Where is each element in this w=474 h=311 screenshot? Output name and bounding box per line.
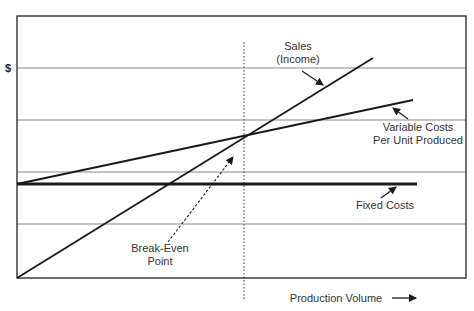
y-axis-label: $: [5, 62, 11, 74]
break-even-arrow: [168, 157, 233, 242]
break-even-label: Break-Even Point: [125, 242, 195, 268]
variable-costs-line: [17, 100, 413, 184]
fixed-costs-arrow: [381, 187, 396, 198]
break-even-label-line1: Break-Even: [125, 242, 195, 255]
break-even-label-line2: Point: [125, 255, 195, 268]
sales-label-line1: Sales: [268, 40, 328, 53]
break-even-chart: [0, 0, 474, 311]
x-axis-label: Production Volume: [286, 292, 386, 305]
variable-costs-label: Variable Costs Per Unit Produced: [368, 121, 468, 147]
sales-label-line2: (Income): [268, 53, 328, 66]
plot-frame: [17, 16, 466, 278]
sales-line: [17, 58, 373, 278]
sales-label: Sales (Income): [268, 40, 328, 66]
variable-costs-arrow: [393, 108, 408, 119]
variable-costs-label-line1: Variable Costs: [368, 121, 468, 134]
variable-costs-label-line2: Per Unit Produced: [368, 134, 468, 147]
fixed-costs-label: Fixed Costs: [350, 199, 420, 212]
sales-arrow: [302, 71, 323, 85]
